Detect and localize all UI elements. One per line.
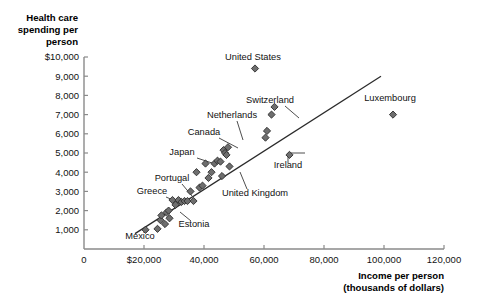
point-label-text: Japan bbox=[169, 147, 194, 157]
annotation-leader bbox=[240, 172, 247, 189]
chart-canvas: 1,0002,0003,0004,0005,0006,0007,0008,000… bbox=[0, 0, 484, 302]
data-point-marker bbox=[187, 188, 194, 195]
data-point-marker bbox=[263, 127, 270, 134]
x-tick-label: 0 bbox=[81, 254, 86, 265]
y-tick-label: 2,000 bbox=[55, 205, 79, 216]
y-axis-title-line: spending per bbox=[18, 24, 78, 35]
x-tick-label: $20,000 bbox=[127, 254, 161, 265]
x-axis-title-line: (thousands of dollars) bbox=[343, 282, 444, 293]
y-axis: 1,0002,0003,0004,0005,0006,0007,0008,000… bbox=[45, 51, 88, 249]
point-label-text: Greece bbox=[137, 186, 168, 196]
data-point-marker bbox=[389, 111, 396, 118]
point-label-text: Canada bbox=[188, 127, 221, 137]
scatter-chart: 1,0002,0003,0004,0005,0006,0007,0008,000… bbox=[0, 0, 484, 302]
y-tick-label: $10,000 bbox=[45, 51, 79, 62]
data-point-marker bbox=[226, 163, 233, 170]
x-tick-label: 80,000 bbox=[309, 254, 338, 265]
data-point-marker bbox=[193, 169, 200, 176]
y-axis-title-line: Health care bbox=[26, 12, 78, 23]
x-tick-label: 40,000 bbox=[189, 254, 218, 265]
point-label-text: Ireland bbox=[274, 160, 302, 170]
data-point-marker bbox=[154, 225, 161, 232]
point-label-text: Portugal bbox=[155, 173, 190, 183]
data-point-marker bbox=[268, 111, 275, 118]
y-tick-label: 6,000 bbox=[55, 128, 79, 139]
point-label-text: Mexico bbox=[125, 231, 154, 241]
y-axis-title-line: person bbox=[46, 36, 78, 47]
point-label-text: United States bbox=[225, 52, 281, 62]
x-axis: 0$20,00040,00060,00080,000100,000120,000 bbox=[81, 245, 461, 265]
data-point-marker bbox=[218, 172, 225, 179]
annotation-leader bbox=[237, 121, 243, 140]
annotation-leader bbox=[285, 106, 299, 118]
point-label-text: Switzerland bbox=[246, 95, 294, 105]
y-tick-label: 7,000 bbox=[55, 109, 79, 120]
y-tick-label: 1,000 bbox=[55, 224, 79, 235]
x-tick-label: 60,000 bbox=[249, 254, 278, 265]
x-axis-title-line: Income per person bbox=[358, 270, 444, 281]
x-tick-label: 100,000 bbox=[367, 254, 401, 265]
y-tick-label: 5,000 bbox=[55, 147, 79, 158]
point-label-text: Estonia bbox=[178, 219, 210, 229]
x-tick-label: 120,000 bbox=[427, 254, 461, 265]
data-point-marker bbox=[251, 65, 258, 72]
x-tick-group: 0$20,00040,00060,00080,000100,000120,000 bbox=[81, 245, 461, 265]
point-label-text: United Kingdom bbox=[222, 188, 288, 198]
data-point-marker bbox=[262, 134, 269, 141]
y-tick-label: 4,000 bbox=[55, 167, 79, 178]
y-tick-label: 9,000 bbox=[55, 71, 79, 82]
y-tick-group: 1,0002,0003,0004,0005,0006,0007,0008,000… bbox=[45, 51, 88, 235]
point-label-text: Luxembourg bbox=[364, 93, 416, 103]
y-tick-label: 8,000 bbox=[55, 90, 79, 101]
point-label-text: Netherlands bbox=[207, 110, 257, 120]
data-point-marker bbox=[202, 160, 209, 167]
y-tick-label: 3,000 bbox=[55, 186, 79, 197]
data-point-marker bbox=[286, 151, 293, 158]
